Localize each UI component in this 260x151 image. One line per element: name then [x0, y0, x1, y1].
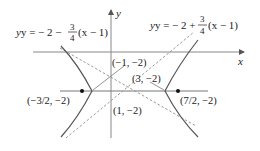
right-vertex-label: (3, −2): [132, 73, 161, 85]
left-vertex-label: (−1, −2): [112, 57, 147, 69]
hyperbola-right-branch: [165, 40, 198, 137]
asym-right-eq: y = − 2 +: [155, 19, 196, 31]
right-focus-dot: [176, 89, 180, 93]
x-axis-label: x: [237, 55, 243, 67]
right-focus-label: (7/2, −2): [180, 95, 217, 107]
asym-left-eq: y = − 2 −: [21, 26, 62, 38]
asym-right-suffix: (x − 1): [208, 19, 238, 32]
asymptote-left-label: yy = − 2 − 3 4 (x − 1): [15, 22, 108, 43]
svg-text:yy = − 2 +: yy = − 2 +: [149, 19, 196, 31]
asym-left-frac-num: 3: [70, 22, 75, 32]
asymptote-right-label: yy = − 2 + 3 4 (x − 1): [149, 14, 238, 36]
hyperbola-diagram: y x yy = − 2 − 3 4 (x − 1) yy = − 2 + 3 …: [0, 0, 260, 151]
asymptote-right-line: [66, 32, 194, 138]
asym-left-frac-den: 4: [70, 33, 75, 43]
center-label: (1, −2): [113, 105, 142, 117]
y-axis-label: y: [115, 7, 121, 19]
asym-right-frac-den: 4: [200, 26, 205, 36]
leader-left-vertex: [93, 66, 124, 90]
asym-left-suffix: (x − 1): [78, 26, 108, 39]
asym-right-frac-num: 3: [200, 14, 205, 24]
left-focus-dot: [80, 89, 84, 93]
left-focus-label: (−3/2, −2): [27, 95, 70, 107]
svg-text:yy = − 2 −: yy = − 2 −: [15, 26, 62, 38]
